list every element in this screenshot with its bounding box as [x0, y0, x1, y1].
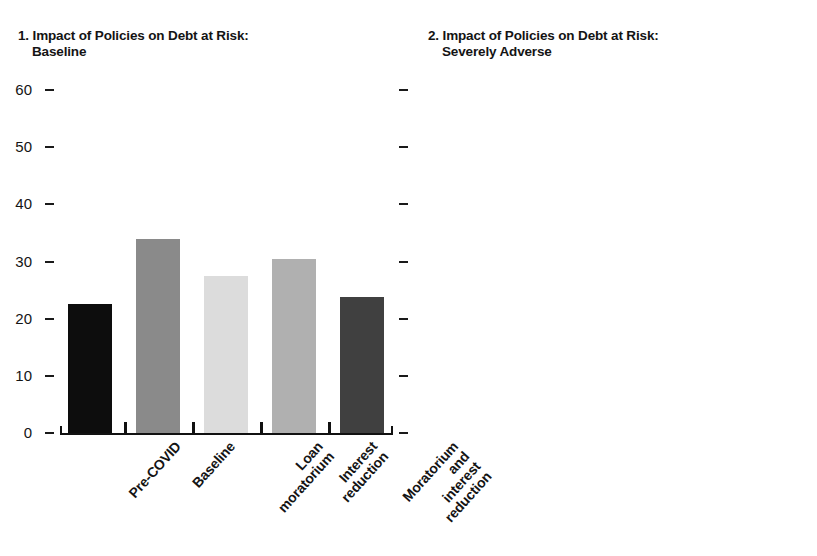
y-axis-label: 40: [15, 196, 32, 211]
y-tick-mark: [399, 146, 408, 148]
x-axis-category-label: Pre-COVID: [126, 439, 184, 501]
y-axis-label: 0: [24, 425, 32, 440]
panel-1-title-line1: 1. Impact of Policies on Debt at Risk:: [18, 28, 249, 43]
x-tick-separator: [192, 422, 195, 433]
panel-2-title: 2. Impact of Policies on Debt at Risk: S…: [428, 12, 748, 76]
figure-two-panel-bar-charts: 1. Impact of Policies on Debt at Risk: B…: [0, 0, 817, 556]
x-axis-category-labels: Pre-COVIDBaselineLoan moratoriumInterest…: [60, 435, 393, 555]
y-tick-mark: [399, 432, 408, 434]
bar: [204, 276, 248, 433]
y-tick-mark: [45, 375, 54, 377]
x-axis-category-label: Loan moratorium: [264, 439, 337, 515]
y-tick-mark: [399, 318, 408, 320]
y-axis-label: 10: [15, 368, 32, 383]
bar: [136, 239, 180, 433]
y-tick-mark: [399, 375, 408, 377]
y-tick-mark: [399, 261, 408, 263]
y-tick-mark: [45, 261, 54, 263]
y-tick-mark: [45, 318, 54, 320]
panel-1-title: 1. Impact of Policies on Debt at Risk: B…: [18, 12, 338, 76]
y-axis-label: 50: [15, 139, 32, 154]
bar: [272, 259, 316, 433]
bar: [68, 304, 112, 433]
x-tick-separator: [260, 422, 263, 433]
y-tick-mark: [45, 146, 54, 148]
plot-area-baseline: 0102030405060 Pre-COVIDBaselineLoan mora…: [60, 90, 393, 435]
bar-series-baseline: [60, 90, 393, 433]
panel-2-title-line2: Severely Adverse: [428, 44, 748, 60]
panel-1-title-line2: Baseline: [18, 44, 338, 60]
bar: [340, 297, 384, 433]
y-axis-label: 30: [15, 254, 32, 269]
y-tick-mark: [45, 203, 54, 205]
panel-severely-adverse: 2. Impact of Policies on Debt at Risk: S…: [410, 0, 817, 556]
y-axis-label: 20: [15, 311, 32, 326]
panel-2-title-line1: 2. Impact of Policies on Debt at Risk:: [428, 28, 659, 43]
x-tick-separator: [328, 422, 331, 433]
y-tick-mark: [399, 203, 408, 205]
y-tick-mark: [45, 89, 54, 91]
x-axis-category-label: Baseline: [190, 439, 239, 491]
panel-baseline: 1. Impact of Policies on Debt at Risk: B…: [0, 0, 410, 556]
y-tick-mark: [399, 89, 408, 91]
x-axis-category-label: Interest reduction: [328, 439, 392, 505]
y-tick-mark: [45, 432, 54, 434]
y-axis-label: 60: [15, 82, 32, 97]
x-tick-separator: [124, 422, 127, 433]
